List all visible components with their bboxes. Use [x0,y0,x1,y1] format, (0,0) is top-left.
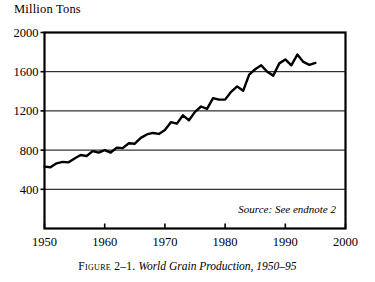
y-axis-tick-label: 1600 [14,65,39,79]
y-axis-tick-label: 400 [20,183,39,197]
x-axis-tick-label: 1980 [213,235,238,249]
x-axis-tick-label: 1970 [152,235,177,249]
x-axis-tick-labels: 195019601970198019902000 [32,235,358,249]
x-axis-tick-label: 1990 [273,235,298,249]
x-axis-tick-label: 1950 [32,235,57,249]
chart-plot: 400800120016002000 195019601970198019902… [0,0,375,258]
x-axis-tick-label: 1960 [92,235,117,249]
figure-caption-label: Figure 2–1. [78,260,135,272]
x-axis-tick-label: 2000 [333,235,358,249]
source-note: Source: See endnote 2 [238,203,336,215]
y-axis-tick-label: 800 [20,144,39,158]
plot-frame [45,33,346,229]
figure-caption-title: World Grain Production, 1950–95 [138,260,296,272]
figure-container: Million Tons 400800120016002000 19501960… [0,0,375,282]
y-axis-tick-label: 2000 [14,26,39,40]
y-axis-tick-labels: 400800120016002000 [14,26,39,197]
figure-caption: Figure 2–1. World Grain Production, 1950… [0,260,375,272]
y-axis-tick-label: 1200 [14,104,39,118]
